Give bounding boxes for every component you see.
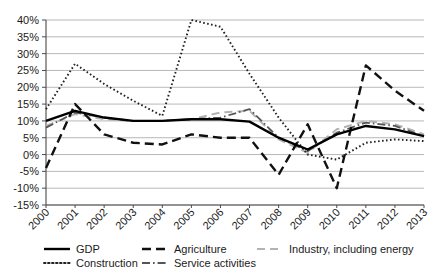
- x-axis-tick-label: 2008: [258, 206, 284, 232]
- y-axis-tick-label: 40%: [17, 14, 39, 26]
- legend-label-construction: Construction: [76, 257, 138, 269]
- legend-label-gdp: GDP: [76, 243, 100, 255]
- y-axis-tick-label: -15%: [13, 199, 39, 211]
- legend-item-agriculture[interactable]: Agriculture: [142, 243, 227, 255]
- x-axis-tick-label: 2005: [171, 206, 197, 232]
- x-axis-tick-label: 2013: [404, 206, 430, 232]
- chart-figure: 40%35%30%25%20%15%10%5%0%-5%-10%-15%2000…: [0, 0, 440, 277]
- x-axis-tick-label: 2010: [316, 206, 342, 232]
- y-axis-tick-label: 10%: [17, 115, 39, 127]
- chart-legend: GDPAgricultureIndustry, including energy…: [44, 243, 414, 269]
- y-axis-tick-label: 35%: [17, 31, 39, 43]
- series-line-service-activities: [46, 109, 424, 151]
- legend-label-service-activities: Service activities: [174, 257, 256, 269]
- y-axis-tick-label: -10%: [13, 182, 39, 194]
- y-axis-tick-label: 5%: [23, 132, 39, 144]
- x-axis-tick-labels: 2000200120022003200420052006200720082009…: [26, 205, 430, 232]
- x-axis-tick-label: 2001: [55, 206, 81, 232]
- x-axis-tick-label: 2006: [200, 206, 226, 232]
- legend-item-construction[interactable]: Construction: [44, 257, 138, 269]
- x-axis-tick-label: 2002: [84, 206, 110, 232]
- x-axis-tick-label: 2009: [287, 206, 313, 232]
- line-chart: 40%35%30%25%20%15%10%5%0%-5%-10%-15%2000…: [0, 0, 440, 277]
- y-axis-tick-label: 15%: [17, 98, 39, 110]
- y-axis-tick-label: 30%: [17, 48, 39, 60]
- x-axis-tick-label: 2003: [113, 206, 139, 232]
- legend-item-service-activities[interactable]: Service activities: [142, 257, 256, 269]
- y-axis-tick-label: 20%: [17, 81, 39, 93]
- legend-item-industry-including-energy[interactable]: Industry, including energy: [257, 243, 414, 255]
- x-axis-tick-label: 2007: [229, 206, 255, 232]
- y-axis-tick-label: 0%: [23, 149, 39, 161]
- y-axis-tick-label: -5%: [19, 165, 39, 177]
- legend-item-gdp[interactable]: GDP: [44, 243, 100, 255]
- legend-label-agriculture: Agriculture: [174, 243, 227, 255]
- series-line-gdp: [46, 111, 424, 150]
- x-axis-tick-label: 2011: [346, 206, 371, 231]
- x-axis-tick-label: 2004: [142, 206, 168, 232]
- legend-label-industry-including-energy: Industry, including energy: [289, 243, 414, 255]
- y-axis-tick-label: 25%: [17, 64, 39, 76]
- x-axis-tick-label: 2012: [375, 206, 401, 232]
